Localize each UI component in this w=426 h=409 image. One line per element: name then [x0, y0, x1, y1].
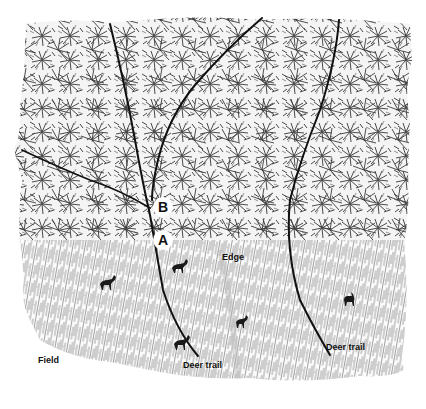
marker-a: A	[153, 230, 173, 250]
marker-b: B	[153, 197, 173, 217]
field-label: Field	[38, 355, 59, 365]
deer-trail-illustration: B A Edge Field Deer trail Deer trail	[0, 0, 426, 409]
field-grass	[0, 235, 426, 395]
forest-canopy	[0, 0, 426, 260]
edge-label: Edge	[222, 252, 244, 262]
deer-trail-right-label: Deer trail	[326, 342, 365, 352]
deer-trail-left-label: Deer trail	[183, 360, 222, 370]
